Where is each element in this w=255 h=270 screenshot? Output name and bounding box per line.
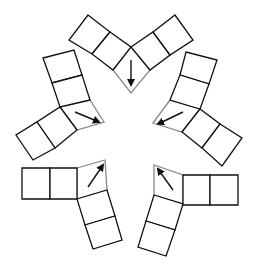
piece-upper-right bbox=[153, 52, 242, 166]
piece-lower-right bbox=[138, 165, 238, 256]
square bbox=[183, 175, 210, 205]
square bbox=[22, 168, 50, 199]
piece-lower-left bbox=[22, 160, 122, 249]
square bbox=[50, 168, 77, 199]
square bbox=[210, 175, 238, 205]
piece-top bbox=[69, 15, 193, 93]
piece-upper-left bbox=[16, 50, 104, 160]
net-diagram bbox=[0, 0, 255, 270]
